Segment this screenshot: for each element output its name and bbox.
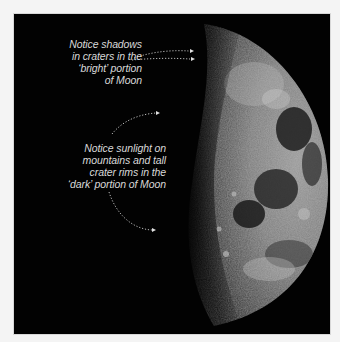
arrow-dark-bottom — [109, 192, 152, 230]
caption-bright-portion: Notice shadows in craters in the ‘bright… — [69, 38, 142, 86]
caption-line: Notice sunlight on — [68, 142, 166, 154]
arrow-dark-top — [112, 113, 156, 134]
moon-photo-panel: Notice shadows in craters in the ‘bright… — [14, 14, 330, 334]
caption-line: ‘dark’ portion of Moon — [68, 178, 166, 190]
caption-line: mountains and tall — [68, 154, 166, 166]
arrowhead-icon — [152, 228, 156, 232]
arrow-bright-1 — [134, 51, 189, 58]
caption-line: crater rims in the — [68, 166, 166, 178]
arrowhead-icon — [191, 57, 195, 61]
caption-line: Notice shadows — [69, 38, 142, 50]
arrowhead-icon — [156, 111, 160, 115]
caption-line: ‘bright’ portion — [69, 62, 142, 74]
caption-line: of Moon — [69, 74, 142, 86]
annotation-arrows — [14, 14, 330, 334]
caption-line: in craters in the — [69, 50, 142, 62]
arrowhead-icon — [190, 49, 194, 53]
caption-dark-portion: Notice sunlight on mountains and tall cr… — [68, 142, 166, 190]
